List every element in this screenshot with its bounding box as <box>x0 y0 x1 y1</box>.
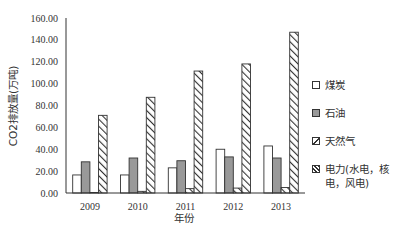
y-tick-label: 120.00 <box>31 56 59 67</box>
y-tick-label: 20.00 <box>36 166 59 177</box>
legend-item-gas: 天然气 <box>312 134 398 148</box>
legend-label: 电力(水电，核电，风电) <box>325 162 398 190</box>
bar <box>233 188 242 193</box>
bar <box>194 71 203 193</box>
bar <box>168 168 177 193</box>
bar <box>264 146 273 193</box>
bar <box>99 115 108 193</box>
legend-item-electricity: 电力(水电，核电，风电) <box>312 162 398 190</box>
bar <box>273 158 282 193</box>
y-tick-label: 100.00 <box>31 78 59 89</box>
x-tick-label: 2011 <box>176 201 196 212</box>
bar <box>81 162 90 193</box>
bar <box>177 161 186 193</box>
y-tick-label: 160.00 <box>31 13 59 24</box>
bar <box>121 175 130 193</box>
y-tick-label: 80.00 <box>36 100 59 111</box>
legend-label: 石油 <box>325 106 345 120</box>
bar <box>225 157 234 193</box>
legend-item-coal: 煤炭 <box>312 78 398 92</box>
y-axis-ticks: 0.0020.0040.0060.0080.00100.00120.00140.… <box>31 13 59 199</box>
legend-label: 煤炭 <box>325 78 345 92</box>
y-tick-label: 140.00 <box>31 34 59 45</box>
y-tick-label: 40.00 <box>36 144 59 155</box>
x-axis-title: 年份 <box>174 212 195 224</box>
x-axis-ticks: 20092010201120122013 <box>80 201 291 212</box>
bar <box>129 158 138 193</box>
bar <box>242 64 251 193</box>
x-tick-label: 2010 <box>128 201 148 212</box>
y-tick-label: 0.00 <box>41 188 59 199</box>
bar <box>281 188 290 193</box>
x-tick-label: 2012 <box>223 201 243 212</box>
bars <box>73 32 299 193</box>
bar <box>146 97 155 193</box>
legend-swatch-hatch <box>312 165 320 173</box>
y-tick-label: 60.00 <box>36 122 59 133</box>
legend-swatch-hatch-light <box>312 137 320 145</box>
bar <box>290 32 299 193</box>
legend-label: 天然气 <box>325 134 355 148</box>
legend-item-oil: 石油 <box>312 106 398 120</box>
x-tick-label: 2009 <box>80 201 100 212</box>
legend-swatch-gray <box>312 109 320 117</box>
bar <box>186 189 195 193</box>
bar <box>73 175 82 193</box>
x-tick-label: 2013 <box>271 201 291 212</box>
legend: 煤炭 石油 天然气 电力(水电，核电，风电) <box>312 78 398 204</box>
legend-swatch-white <box>312 81 320 89</box>
bar <box>216 149 225 193</box>
y-axis-title: CO2排放量(万吨) <box>7 66 19 146</box>
